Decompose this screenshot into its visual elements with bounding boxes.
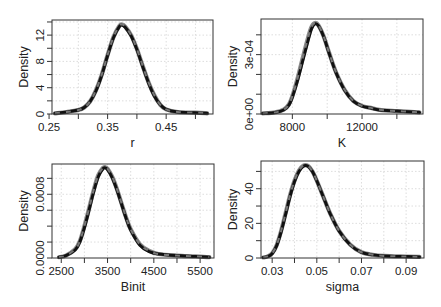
plot-frame — [261, 19, 423, 114]
x-axis-title: sigma — [326, 280, 359, 294]
x-axis-title: Binit — [121, 280, 146, 294]
x-tick-label: 0.07 — [350, 265, 372, 277]
x-tick-label: 2500 — [48, 265, 74, 277]
x-tick-label: 0.09 — [395, 265, 417, 277]
density-curve-overlay — [59, 167, 209, 257]
x-tick-label: 0.45 — [155, 121, 177, 133]
y-axis-title: Density — [17, 45, 31, 87]
panel-r: 0.250.350.4504812rDensity — [17, 20, 213, 150]
y-tick-label: 0.0000 — [34, 240, 46, 275]
x-tick-label: 0.03 — [261, 265, 283, 277]
y-tick-label: 0 — [34, 111, 46, 117]
density-curve-main — [55, 25, 207, 113]
y-tick-label: 0e+00 — [243, 98, 255, 130]
x-tick-label: 5500 — [187, 265, 213, 277]
y-axis-title: Density — [226, 188, 240, 230]
density-curve-main — [263, 24, 420, 114]
y-tick-label: 0.0008 — [34, 177, 46, 212]
x-tick-label: 8000 — [280, 121, 306, 133]
density-curve-dashed — [59, 167, 209, 257]
x-tick-label: 12000 — [346, 121, 378, 133]
y-tick-label: 40 — [243, 182, 255, 195]
y-tick-label: 0 — [243, 255, 255, 261]
x-tick-label: 4500 — [141, 265, 167, 277]
y-tick-label: 4 — [34, 84, 46, 91]
density-curve-overlay — [263, 23, 420, 114]
panel-K: 8000120000e+003e-04KDensity — [226, 19, 423, 150]
density-plot-figure: 0.250.350.4504812rDensity 8000120000e+00… — [0, 0, 441, 307]
density-curve-dashed — [263, 23, 420, 114]
y-tick-label: 12 — [34, 29, 46, 42]
y-axis-title: Density — [226, 45, 240, 87]
y-tick-label: 20 — [243, 217, 255, 230]
x-axis-title: K — [338, 136, 347, 150]
density-curve-main — [59, 168, 209, 257]
y-tick-label: 8 — [34, 58, 46, 64]
x-tick-label: 0.25 — [38, 121, 60, 133]
y-axis-title: Density — [17, 189, 31, 231]
density-curve-main — [263, 166, 419, 258]
x-axis-title: r — [130, 136, 134, 150]
panel-Binit: 25003500450055000.00000.0008BinitDensity — [17, 164, 214, 294]
x-tick-label: 0.35 — [96, 121, 118, 133]
x-tick-label: 3500 — [95, 265, 121, 277]
x-tick-label: 0.05 — [306, 265, 328, 277]
y-tick-label: 3e-04 — [243, 39, 255, 69]
panel-sigma: 0.030.050.070.0902040sigmaDensity — [226, 161, 424, 294]
